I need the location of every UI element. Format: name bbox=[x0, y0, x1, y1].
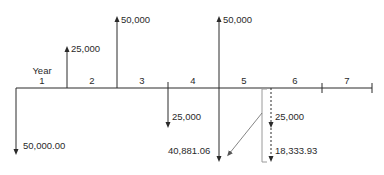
value-label-inflow-year-5: 50,000 bbox=[223, 15, 252, 25]
period-label-4: 4 bbox=[178, 76, 208, 86]
period-label-7: 7 bbox=[332, 76, 362, 86]
value-label-dashed-outflow-b: 18,333.93 bbox=[275, 146, 317, 156]
period-label-6: 6 bbox=[280, 76, 310, 86]
period-label-5: 5 bbox=[229, 76, 259, 86]
grouping-bracket bbox=[262, 89, 267, 162]
period-label-1: 1 bbox=[27, 76, 57, 86]
cash-flow-diagram: Year 1 2 3 4 5 6 7 50,000.00 25,000 50,0… bbox=[0, 0, 384, 175]
value-label-outflow-year-4: 25,000 bbox=[172, 112, 201, 122]
period-label-2: 2 bbox=[77, 76, 107, 86]
value-label-initial-outflow: 50,000.00 bbox=[23, 141, 65, 151]
period-label-3: 3 bbox=[127, 76, 157, 86]
value-label-inflow-year-3: 50,000 bbox=[121, 15, 150, 25]
value-label-dashed-outflow-a: 25,000 bbox=[275, 112, 304, 122]
equivalence-arrow bbox=[229, 113, 262, 154]
value-label-inflow-year-2: 25,000 bbox=[71, 44, 100, 54]
value-label-equivalent-outflow: 40,881.06 bbox=[168, 146, 210, 156]
